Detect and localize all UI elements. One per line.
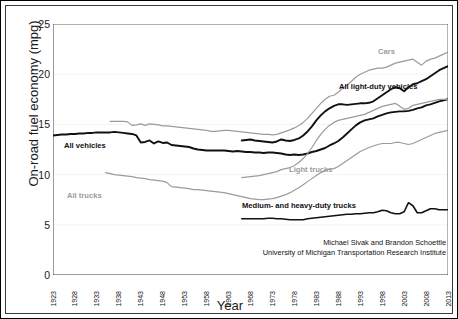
- series-annotation: All vehicles: [64, 141, 106, 150]
- series-annotation: Cars: [378, 47, 395, 56]
- series-annotation: Light trucks: [289, 165, 332, 174]
- series-annotation: All light-duty vehicles: [339, 82, 417, 91]
- series-line: [242, 99, 448, 177]
- series-line: [53, 99, 448, 155]
- y-tick-label: 15: [24, 118, 50, 130]
- credit-line: University of Michigan Transportation Re…: [263, 248, 446, 257]
- y-tick-label: 25: [24, 18, 50, 30]
- x-axis-label: Year: [6, 298, 454, 313]
- y-tick-label: 10: [24, 169, 50, 181]
- series-annotation: All trucks: [67, 191, 102, 200]
- y-axis-ticks: 2520151050: [20, 6, 50, 315]
- chart-figure-frame: On-road fuel economy (mpg) 2520151050 19…: [0, 0, 458, 319]
- credit-line: Michael Sivak and Brandon Schoettle: [323, 238, 446, 247]
- y-tick-label: 5: [24, 219, 50, 231]
- y-tick-label: 20: [24, 68, 50, 80]
- chart-inner-border: On-road fuel economy (mpg) 2520151050 19…: [5, 5, 453, 314]
- series-annotation: Medium- and heavy-duty trucks: [242, 201, 356, 210]
- y-tick-label: 0: [24, 269, 50, 281]
